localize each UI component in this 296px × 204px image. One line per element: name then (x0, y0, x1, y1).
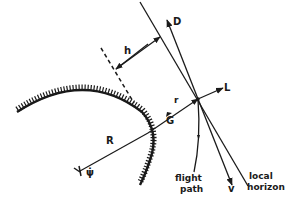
label-G: G (166, 116, 174, 126)
center-marker-icon (74, 166, 81, 176)
label-r: r (174, 96, 178, 105)
label-R: R (106, 136, 114, 146)
label-local-horizon-2: horizon (247, 183, 285, 192)
drag-vector-D (167, 20, 198, 99)
label-v: v (228, 184, 235, 194)
label-psi-dot: ψ̇ (86, 168, 94, 178)
label-L: L (224, 83, 230, 93)
lift-vector-L (198, 88, 223, 99)
vehicle-point (196, 97, 200, 101)
label-flight-path-2: path (180, 185, 203, 194)
label-local-horizon-1: local (249, 172, 273, 181)
label-h: h (124, 46, 131, 56)
altitude-h (116, 37, 160, 69)
local-horizon (140, 2, 248, 186)
label-flight-path-1: flight (175, 174, 202, 183)
velocity-vector-v (198, 99, 232, 185)
flight-path (194, 99, 200, 172)
label-D: D (173, 17, 181, 27)
radius-R (80, 133, 148, 171)
